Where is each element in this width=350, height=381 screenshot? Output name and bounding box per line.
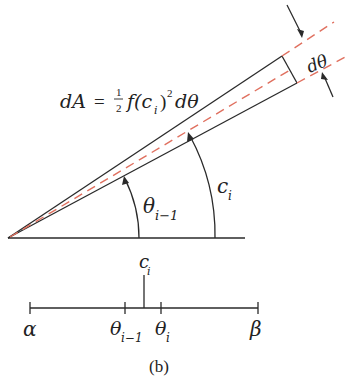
sector-end-cap xyxy=(282,56,297,83)
svg-text:θ: θ xyxy=(143,194,155,218)
svg-text:c: c xyxy=(217,174,228,198)
theta-i-tick-label: θ i xyxy=(155,317,170,345)
polar-area-diagram: dA = 1 2 f(c i ) 2 dθ dθ θ i−1 c i c i α… xyxy=(0,0,350,381)
c-angle-arc xyxy=(187,132,215,238)
svg-text:i: i xyxy=(166,331,170,345)
svg-text:i: i xyxy=(228,189,232,203)
svg-text:i: i xyxy=(147,265,151,278)
svg-text:=: = xyxy=(94,91,105,112)
svg-text:2: 2 xyxy=(167,87,173,99)
beta-label: β xyxy=(249,317,262,341)
c-marker-label: c i xyxy=(139,251,151,278)
parameter-number-line xyxy=(30,275,258,314)
svg-text:2: 2 xyxy=(116,102,122,114)
upper-ray-extension-dashed xyxy=(282,22,334,56)
area-element-formula: dA = 1 2 f(c i ) 2 dθ xyxy=(60,86,199,117)
svg-text:i−1: i−1 xyxy=(121,331,143,345)
c-angle-label: c i xyxy=(217,174,232,203)
dtheta-upper-arrow xyxy=(287,5,304,38)
figure-caption: (b) xyxy=(149,357,169,376)
svg-text:f(c: f(c xyxy=(125,90,152,112)
alpha-label: α xyxy=(23,317,37,341)
svg-text:1: 1 xyxy=(116,86,122,98)
dtheta-label: dθ xyxy=(304,50,331,76)
svg-text:dA: dA xyxy=(60,90,86,112)
svg-text:i: i xyxy=(154,104,158,117)
theta-prev-angle-label: θ i−1 xyxy=(143,194,178,223)
theta-prev-angle-arc xyxy=(122,176,139,238)
svg-text:): ) xyxy=(160,91,166,113)
svg-text:i−1: i−1 xyxy=(155,208,178,223)
svg-text:dθ: dθ xyxy=(175,90,199,112)
dtheta-lower-arrow xyxy=(321,72,333,97)
theta-prev-tick-label: θ i−1 xyxy=(110,317,143,345)
